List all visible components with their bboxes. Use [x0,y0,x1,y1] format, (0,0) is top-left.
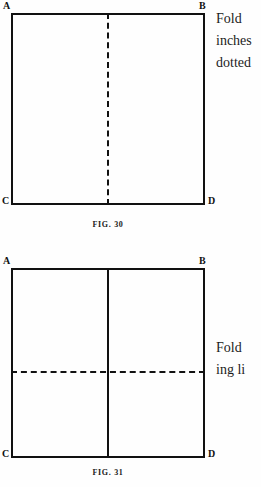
figure-31-vertex-label-b: B [199,256,206,266]
figure-30-vertex-label-a: A [3,1,10,11]
figure-31-caption: FIG. 31 [11,468,205,477]
figure-30-vertex-label-c: C [2,196,9,206]
figure-30-block: A B C D FIG. 30 Fold inches dotted [0,0,261,243]
figure-31-margin-line-2: ing li [216,359,261,381]
figure-30-caption: FIG. 30 [11,220,205,229]
figure-31-vertex-label-c: C [2,449,9,459]
figure-31-vertical-solid-crease-line [107,268,109,458]
figure-30-vertical-dashed-fold-line [107,13,109,205]
figure-30-margin-line-3: dotted [216,52,261,74]
figure-31-margin-line-1: Fold [216,337,261,359]
scanned-page: A B C D FIG. 30 Fold inches dotted A B C… [0,0,261,487]
figure-30-vertex-label-b: B [199,1,206,11]
figure-31-horizontal-dashed-fold-line [11,371,205,373]
figure-30-margin-line-2: inches [216,30,261,52]
figure-30-margin-line-1: Fold [216,8,261,30]
figure-31-vertex-label-d: D [208,449,215,459]
figure-31-margin-text: Fold ing li [216,337,261,381]
figure-31-block: A B C D FIG. 31 Fold ing li [0,243,261,487]
figure-30-margin-text: Fold inches dotted [216,8,261,74]
figure-30-vertex-label-d: D [208,196,215,206]
figure-31-vertex-label-a: A [3,256,10,266]
